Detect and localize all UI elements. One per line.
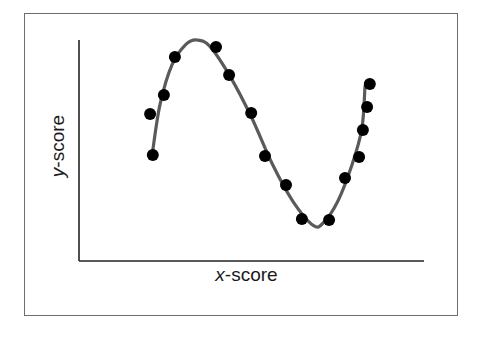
data-point [296,213,308,225]
data-point [210,41,222,53]
data-point [259,150,271,162]
plot-area [0,0,481,339]
data-point [169,51,181,63]
fitted-curve [153,40,365,227]
data-point [361,101,373,113]
data-point [158,89,170,101]
x-axis-label: x-score [0,264,481,286]
data-point [339,172,351,184]
data-point [353,151,365,163]
data-point [147,149,159,161]
y-axis-label: y-score [47,115,69,177]
data-point [223,69,235,81]
data-point [245,107,257,119]
data-point [323,214,335,226]
data-point [364,78,376,90]
data-point [357,124,369,136]
data-point [280,179,292,191]
data-point [144,108,156,120]
